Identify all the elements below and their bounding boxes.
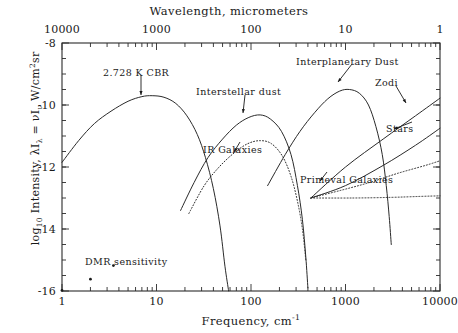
x-tick-label: 1000	[331, 296, 360, 307]
top-axis-title: Wavelength, micrometers	[150, 6, 309, 18]
bottom-axis-title: Frequency, cm-1	[202, 314, 301, 327]
bottom-axis-title-text: Frequency, cm	[202, 314, 293, 328]
y-axis-units-tail: sr	[29, 52, 42, 64]
bottom-axis-exponent: -1	[292, 313, 300, 322]
top-tick-label: 100	[240, 24, 262, 35]
annotation-primeval-galaxies: Primeval Galaxies	[300, 175, 393, 185]
x-tick-label: 1	[58, 296, 65, 307]
y-tick-label: -8	[45, 38, 56, 49]
annotation-dmr-sensitivity: DMR sensitivity	[85, 257, 168, 267]
top-tick-label: 1000	[142, 24, 171, 35]
y-axis-intensity-text: Intensity, λI	[29, 143, 42, 217]
top-tick-label: 10	[338, 24, 352, 35]
annotation-interstellar-dust: Interstellar dust	[196, 87, 281, 97]
marker-dmr-sensitivity	[89, 278, 92, 281]
x-tick-label: 100	[240, 296, 262, 307]
marker-dmr-sensitivity	[61, 289, 64, 292]
x-tick-label: 10	[149, 296, 163, 307]
annotation-interplanetary-dust: Interplanetary Dust	[296, 57, 399, 67]
y-tick-label: -10	[38, 100, 56, 111]
curve-ir-galaxies	[189, 141, 306, 260]
y-axis-lambda-sub: λ	[35, 138, 44, 143]
annotation-ir-galaxies: IR Galaxies	[203, 145, 262, 155]
y-tick-label: -16	[38, 286, 56, 297]
top-tick-label: 1	[436, 24, 443, 35]
y-axis-title: log10 Intensity, λIλ = νIν W/cm2sr	[28, 48, 45, 248]
y-tick-label: -14	[38, 224, 56, 235]
annotation-stars: Stars	[386, 124, 413, 134]
curve-zodi-horizontal-component	[311, 196, 440, 198]
curve-interplanetary-dust	[268, 89, 392, 244]
annotation-arrows	[139, 64, 412, 181]
top-tick-label: 10000	[44, 24, 80, 35]
cobe-spectrum-figure	[0, 0, 458, 333]
x-tick-label: 10000	[422, 296, 458, 307]
y-tick-label: -12	[38, 162, 56, 173]
annotation-cbr: 2.728 K CBR	[103, 68, 169, 78]
annotation-zodi: Zodi	[375, 78, 398, 88]
curve-stars	[311, 128, 440, 198]
y-axis-units-exponent: 2	[28, 63, 37, 68]
y-axis-equals-nu: = νI	[29, 110, 42, 139]
